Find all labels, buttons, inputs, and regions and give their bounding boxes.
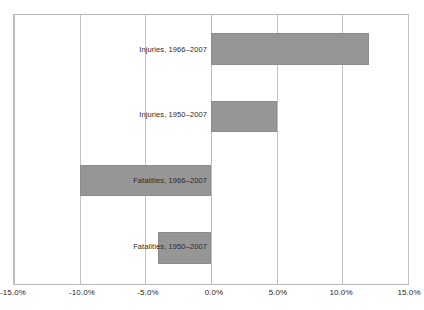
bar [211,101,277,132]
x-tick-label: -10.0% [69,288,95,297]
bar-chart: Injuries, 1966–2007Injuries, 1950–2007Fa… [0,0,424,310]
bar-category-label: Injuries, 1950–2007 [139,110,207,119]
x-tick-label: 10.0% [329,288,352,297]
x-tick-label: 5.0% [269,288,288,297]
x-tick-label: -15.0% [0,288,26,297]
gridline-15 [408,15,409,284]
bar-category-label: Injuries, 1966–2007 [139,45,207,54]
x-axis-tick-labels: -15.0%-10.0%-5.0%0.0%5.0%10.0%15.0% [0,288,424,304]
bar-category-label: Fatalities, 1966–2007 [133,176,207,185]
x-tick-label: 15.0% [397,288,420,297]
gridline-neg15 [14,15,15,284]
gridline-neg10 [80,15,81,284]
plot-area: Injuries, 1966–2007Injuries, 1950–2007Fa… [13,14,409,285]
bar-category-label: Fatalities, 1950–2007 [133,242,207,251]
x-tick-label: 0.0% [205,288,224,297]
bar [211,33,369,65]
x-tick-label: -5.0% [137,288,158,297]
